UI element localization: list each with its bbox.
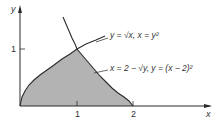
y-axis-arrow-icon: [18, 5, 22, 13]
x-tick-label-2: 2: [131, 110, 136, 119]
y-tick-label-1: 1: [11, 45, 16, 54]
sqrt-curve-label: y = √x, x = y²: [110, 31, 159, 40]
x-tick-label-1: 1: [75, 110, 80, 119]
y-axis-label: y: [11, 5, 16, 14]
x-axis-arrow-icon: [204, 104, 212, 108]
parabola-curve-label: x = 2 − √y, y = (x − 2)²: [110, 64, 192, 73]
region-diagram: [0, 0, 219, 122]
x-axis-label: x: [206, 110, 211, 119]
